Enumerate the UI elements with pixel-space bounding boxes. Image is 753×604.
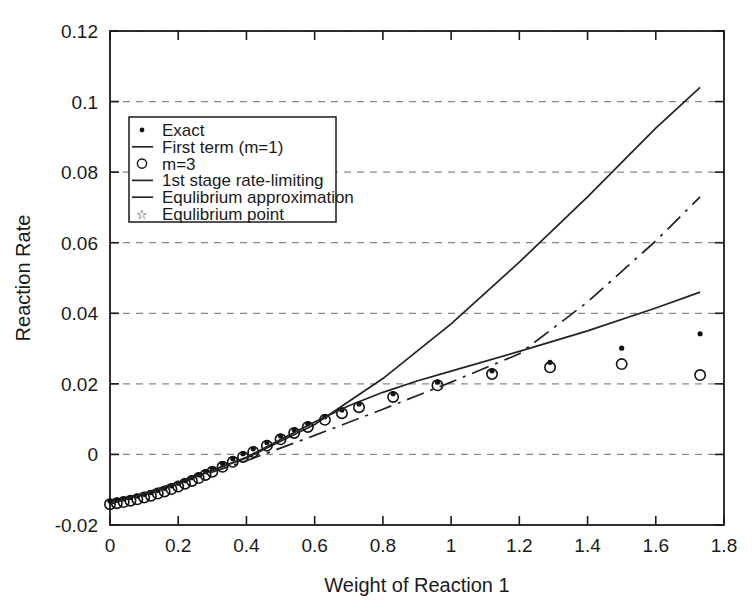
data-point-dot	[698, 331, 703, 336]
y-axis-label: Reaction Rate	[12, 215, 34, 342]
legend-dot-icon	[140, 128, 145, 133]
reaction-rate-chart: 00.20.40.60.811.21.41.61.8 -0.0200.020.0…	[0, 0, 753, 604]
chart-figure: 00.20.40.60.811.21.41.61.8 -0.0200.020.0…	[0, 0, 753, 604]
x-tick-label: 1.4	[574, 535, 601, 556]
y-tick-label: -0.02	[55, 515, 98, 536]
x-axis-label: Weight of Reaction 1	[324, 574, 509, 596]
data-point-dot	[619, 346, 624, 351]
x-tick-label: 1	[446, 535, 457, 556]
y-tick-label: 0.02	[61, 374, 98, 395]
chart-background	[0, 0, 753, 604]
x-tick-label: 1.2	[506, 535, 532, 556]
x-tick-label: 0	[105, 535, 116, 556]
y-tick-label: 0	[87, 444, 98, 465]
x-tick-label: 0.8	[370, 535, 396, 556]
legend-star-icon: ☆	[136, 207, 148, 222]
x-tick-label: 1.8	[711, 535, 737, 556]
x-tick-label: 0.6	[301, 535, 327, 556]
y-tick-label: 0.1	[72, 92, 98, 113]
y-tick-label: 0.12	[61, 21, 98, 42]
y-tick-label: 0.08	[61, 162, 98, 183]
chart-legend: ExactFirst term (m=1)m=31st stage rate-l…	[129, 117, 354, 224]
legend-label: Equlibrium point	[162, 205, 284, 224]
x-tick-label: 0.4	[233, 535, 260, 556]
x-tick-label: 1.6	[643, 535, 669, 556]
y-tick-label: 0.06	[61, 233, 98, 254]
y-tick-label: 0.04	[61, 303, 98, 324]
x-tick-label: 0.2	[165, 535, 191, 556]
